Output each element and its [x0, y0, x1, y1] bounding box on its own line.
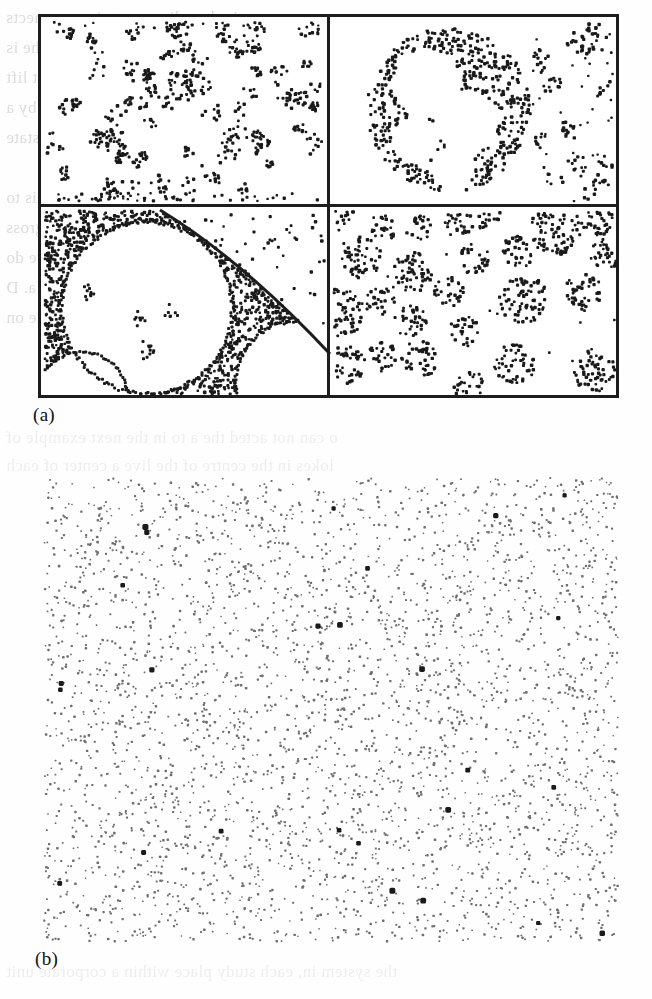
panel-a-scatter: [38, 14, 619, 398]
caption-a: (a): [33, 404, 55, 426]
figure-container: (a) (b): [0, 0, 652, 999]
panel-b-scatter: [42, 476, 620, 944]
panel-a: [38, 14, 619, 398]
caption-b: (b): [35, 948, 58, 970]
panel-a-arc-boundary: [160, 210, 330, 354]
panel-b: [42, 476, 620, 944]
